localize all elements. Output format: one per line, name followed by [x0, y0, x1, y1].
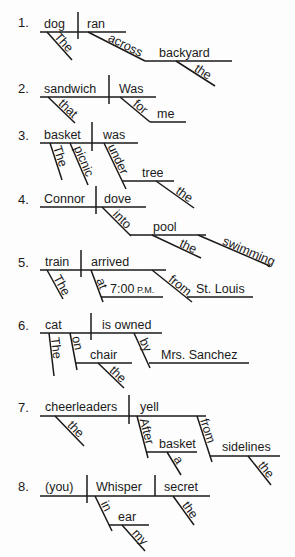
modifier-The: The — [50, 144, 70, 169]
modifier-The: The — [50, 272, 73, 298]
subject-word: sandwich — [44, 82, 96, 96]
diagram-number: 1. — [18, 15, 29, 30]
verb-word: dove — [104, 192, 131, 206]
verb-word: Was — [119, 82, 144, 96]
verb-word: was — [102, 128, 125, 142]
object-basket: basket — [159, 437, 196, 451]
object-tree: tree — [142, 166, 164, 180]
verb-word: arrived — [91, 255, 129, 269]
verb-word: ran — [87, 17, 105, 31]
preposition-After: After — [136, 417, 156, 446]
preposition-into: into — [110, 207, 134, 231]
preposition-for: for — [130, 97, 150, 117]
modifier-that: that — [56, 96, 81, 121]
modifier-the: the — [255, 459, 277, 481]
modifier-the: the — [179, 499, 201, 521]
preposition-across: across — [106, 31, 145, 60]
subject-word: Connor — [44, 192, 85, 206]
subject-word: basket — [44, 128, 81, 142]
modifier-the: The — [51, 30, 76, 55]
subject-word: cat — [45, 318, 62, 332]
diagram-canvas: 1.dogranTheacrossbackyardthe2.sandwichWa… — [0, 0, 295, 557]
diagram-number: 6. — [18, 318, 29, 333]
modifier-The: The — [48, 336, 64, 359]
diagram-number: 3. — [18, 128, 29, 143]
preposition-at: at — [94, 276, 111, 291]
object-time-suffix: P.M. — [137, 285, 154, 295]
object-pool: pool — [153, 220, 177, 234]
subject-word: train — [45, 255, 69, 269]
preposition-by: by — [136, 336, 155, 355]
preposition-under: under — [105, 142, 131, 177]
object-mrs-sanchez: Mrs. Sanchez — [161, 348, 237, 362]
verb-word: is owned — [102, 318, 151, 332]
modifier-swimming: swimming — [221, 234, 278, 269]
diagram-2: 2.sandwichWasthatforme — [18, 75, 186, 123]
object-ear: ear — [118, 510, 136, 524]
subject-word: cheerleaders — [45, 400, 117, 414]
object-st-louis: St. Louis — [196, 282, 245, 296]
diagram-8: 8.(you)Whispersecretinearmythe — [18, 475, 210, 551]
diagram-number: 5. — [18, 255, 29, 270]
preposition-in: in — [98, 499, 115, 514]
modifier-the: the — [65, 418, 87, 440]
modifier-the: the — [107, 363, 129, 385]
diagram-7: 7.cheerleadersyelltheAfterbasketafromsid… — [18, 395, 280, 485]
modifier-the: the — [192, 61, 214, 82]
diagram-number: 4. — [18, 192, 29, 207]
verb-word: Whisper — [96, 480, 142, 494]
preposition-on: on — [69, 335, 85, 351]
preposition-from: from — [197, 417, 218, 445]
modifier-the: the — [177, 236, 199, 256]
diagram-5: 5.trainarrivedTheat7:00P.M.fromSt. Louis — [18, 250, 253, 302]
modifier-the: the — [173, 184, 195, 206]
diagram-number: 8. — [18, 479, 29, 494]
modifier-my: my — [129, 526, 151, 548]
modifier-a: a — [171, 453, 187, 466]
object-time: 7:00 — [110, 282, 134, 296]
object-me: me — [157, 107, 174, 121]
diagram-1: 1.dogranTheacrossbackyardthe — [18, 12, 232, 86]
sentence-diagram-worksheet: 1.dogranTheacrossbackyardthe2.sandwichWa… — [0, 0, 295, 557]
object-backyard: backyard — [159, 46, 210, 60]
subject-word: (you) — [45, 480, 73, 494]
diagram-6: 6.catis ownedTheonchairthebyMrs. Sanchez — [18, 313, 249, 388]
direct-object-word: secret — [164, 480, 199, 494]
object-sidelines: sidelines — [222, 440, 271, 454]
object-chair: chair — [90, 348, 117, 362]
diagram-number: 7. — [18, 400, 29, 415]
preposition-from: from — [166, 272, 194, 299]
diagram-number: 2. — [18, 81, 29, 96]
verb-word: yell — [140, 400, 159, 414]
